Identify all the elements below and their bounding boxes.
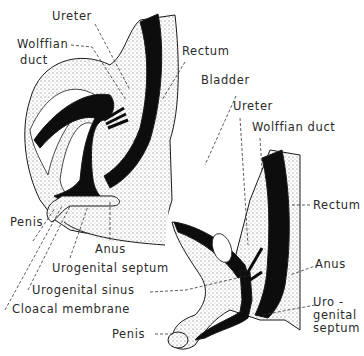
label-wolffian-duct-lower: Wolffian duct (252, 121, 335, 133)
label-rectum-lower: Rectum (313, 199, 360, 211)
label-wolffian-duct-upper-line2: duct (20, 54, 48, 66)
lower-diagram (168, 150, 300, 349)
label-penis-upper: Penis (10, 216, 43, 228)
label-cloacal-membrane: Cloacal membrane (12, 303, 130, 315)
label-anus-lower: Anus (315, 258, 346, 270)
label-urogenital-septum-lower-line2: genital (313, 309, 357, 321)
label-wolffian-duct-upper-line1: Wolffian (17, 38, 68, 50)
label-anus-upper: Anus (95, 243, 126, 255)
label-urogenital-septum-lower-line1: Uro - (313, 296, 344, 308)
label-rectum-upper: Rectum (182, 45, 229, 57)
label-bladder: Bladder (201, 74, 250, 86)
label-urogenital-septum-lower-line3: septum (313, 322, 360, 334)
label-urogenital-septum-upper: Urogenital septum (52, 262, 169, 274)
label-ureter-upper: Ureter (52, 10, 92, 22)
embryology-figure: Ureter Wolffian duct Rectum Penis Anus U… (0, 0, 364, 356)
label-penis-lower: Penis (112, 328, 145, 340)
label-urogenital-sinus-upper: Urogenital sinus (32, 284, 135, 296)
label-ureter-lower: Ureter (233, 100, 273, 112)
